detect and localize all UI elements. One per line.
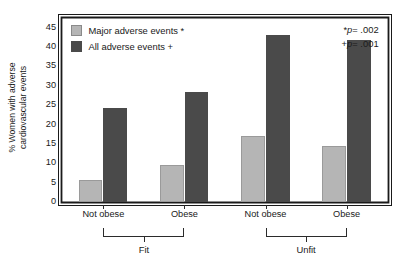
y-axis-title-line2: cardiovascular events [17, 62, 28, 152]
chart-figure: % Women with adverse cardiovascular even… [0, 0, 397, 274]
bar-major-adverse [160, 165, 184, 202]
legend-item-major-adverse: Major adverse events * [71, 23, 184, 37]
bar-all-adverse [266, 35, 290, 202]
y-axis-ticks: 051015202530354045 [34, 19, 58, 201]
p-value-annotations: *p= .002 +p= .001 [342, 23, 379, 51]
p-value-text-major: = .002 [352, 24, 378, 35]
x-axis-label: Obese [333, 209, 360, 219]
group-label: Fit [139, 244, 149, 255]
p-value-text-all: = .001 [352, 38, 378, 49]
x-axis-labels: Not obeseObeseNot obeseObese [58, 209, 392, 225]
y-axis-tick-label: 45 [46, 22, 56, 32]
x-axis-label: Not obese [245, 209, 287, 219]
y-axis-tick-label: 5 [51, 177, 56, 187]
y-axis-tick-label: 25 [46, 99, 56, 109]
plot-area: Major adverse events * All adverse event… [58, 14, 392, 206]
bar-all-adverse [185, 92, 209, 202]
y-axis-title: % Women with adverse cardiovascular even… [0, 0, 34, 215]
group-bracket [103, 228, 184, 237]
group-label: Unfit [296, 244, 315, 255]
legend-label-major-adverse: Major adverse events * [88, 25, 184, 36]
bar-all-adverse [347, 40, 371, 201]
x-axis-tick-mark [103, 205, 104, 209]
bar-major-adverse [79, 180, 103, 202]
legend: Major adverse events * All adverse event… [71, 23, 184, 55]
bar-all-adverse [103, 108, 127, 201]
y-axis-tick-label: 20 [46, 119, 56, 129]
y-axis-tick-label: 40 [46, 41, 56, 51]
p-value-annotation-major: *p= .002 [342, 23, 379, 37]
x-axis-tick-mark [266, 205, 267, 209]
legend-label-all-adverse: All adverse events + [88, 41, 173, 52]
y-axis-tick-label: 10 [46, 157, 56, 167]
legend-swatch-major-adverse [71, 25, 82, 36]
group-bracket-stem [144, 237, 145, 242]
legend-swatch-all-adverse [71, 41, 82, 52]
group-bracket-stem [306, 237, 307, 242]
legend-item-all-adverse: All adverse events + [71, 39, 184, 53]
group-bracket [266, 228, 347, 237]
bar-major-adverse [322, 146, 346, 202]
x-axis-tick-mark [347, 205, 348, 209]
x-axis-tick-mark [184, 205, 185, 209]
x-axis-group-brackets: FitUnfit [58, 228, 392, 272]
p-value-annotation-all: +p= .001 [342, 37, 379, 51]
y-axis-tick-label: 0 [51, 196, 56, 206]
x-axis-label: Obese [171, 209, 198, 219]
y-axis-tick-label: 15 [46, 138, 56, 148]
x-axis-label: Not obese [82, 209, 124, 219]
y-axis-title-line1: % Women with adverse [7, 62, 18, 152]
bar-major-adverse [241, 136, 265, 201]
y-axis-tick-label: 35 [46, 60, 56, 70]
y-axis-tick-label: 30 [46, 80, 56, 90]
